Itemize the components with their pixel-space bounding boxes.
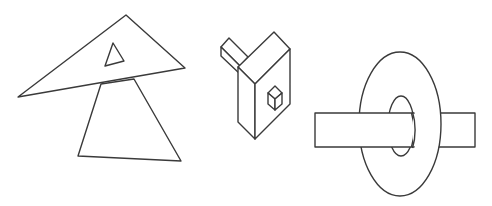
triangles-figure [18, 15, 185, 161]
ring-figure [315, 52, 475, 196]
bar-left-segment [315, 113, 414, 147]
figure-svg [0, 0, 492, 206]
block-figure [221, 32, 290, 139]
figure-canvas [0, 0, 492, 206]
lower-triangle [78, 79, 181, 161]
